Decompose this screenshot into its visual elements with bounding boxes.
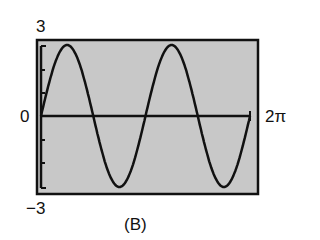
origin-label: 0	[20, 108, 29, 125]
x-max-label: 2π	[265, 108, 286, 125]
figure-caption: (B)	[124, 216, 147, 233]
y-max-label: 3	[36, 18, 45, 35]
y-min-label: −3	[26, 200, 45, 217]
